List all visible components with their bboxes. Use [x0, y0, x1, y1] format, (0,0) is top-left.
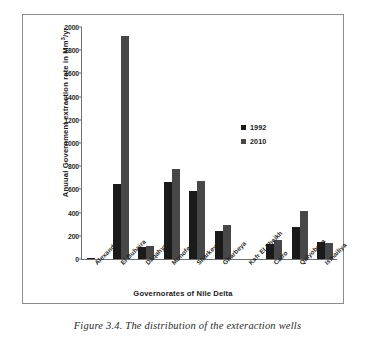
bar-group	[162, 27, 188, 259]
y-axis-tick-label: 0	[53, 256, 79, 263]
figure-caption: Figure 3.4. The distribution of the exte…	[0, 320, 375, 331]
y-axis-tick-label: 1600	[53, 70, 79, 77]
plot-area	[81, 27, 335, 259]
y-axis-tick-label: 200	[53, 232, 79, 239]
legend-item: 2010	[241, 137, 266, 146]
bar-group	[136, 27, 162, 259]
legend-label: 2010	[250, 137, 266, 146]
bar-group	[213, 27, 239, 259]
y-axis-tick-label: 1800	[53, 47, 79, 54]
bar-2010	[172, 169, 180, 259]
bar-group	[85, 27, 111, 259]
bar-group	[111, 27, 137, 259]
x-axis-title: Governorates of Nile Delta	[23, 289, 343, 298]
legend-item: 1992	[241, 123, 266, 132]
y-axis-tick-label: 600	[53, 186, 79, 193]
chart-legend: 19922010	[241, 123, 266, 151]
figure-root: Anuual Government extraction rate in Mm3…	[0, 0, 375, 347]
y-axis-tick-label: 400	[53, 209, 79, 216]
bars-layer	[81, 27, 335, 259]
legend-swatch-icon	[241, 139, 246, 144]
bar-2010	[121, 36, 129, 259]
bar-group	[315, 27, 341, 259]
chart-plot-frame: Anuual Government extraction rate in Mm3…	[22, 14, 344, 304]
y-axis-tick-label: 1000	[53, 140, 79, 147]
y-axis-tick-labels: 0200400600800100012001400160018002000	[53, 27, 79, 259]
legend-label: 1992	[250, 123, 266, 132]
y-axis-tick-label: 1200	[53, 116, 79, 123]
y-axis-tick-label: 1400	[53, 93, 79, 100]
bar-group	[290, 27, 316, 259]
y-axis-tick-label: 800	[53, 163, 79, 170]
legend-swatch-icon	[241, 125, 246, 130]
bar-2010	[197, 181, 205, 259]
bar-group	[264, 27, 290, 259]
y-axis-tick-label: 2000	[53, 24, 79, 31]
bar-1992	[292, 227, 300, 259]
bar-group	[187, 27, 213, 259]
